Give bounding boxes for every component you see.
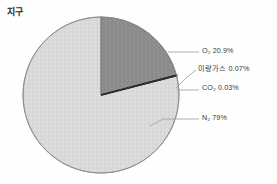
pie-chart-figure: 지구 — [0, 0, 277, 184]
pie-label-n2: N₂ 79% — [202, 113, 227, 122]
pie-label-trace-gases: 미량가스 0.07% — [198, 64, 249, 73]
pie-label-o2: O₂ 20.9% — [202, 46, 234, 55]
pie-label-co2: CO₂ 0.03% — [202, 83, 239, 92]
leader-line-trace-gases — [176, 70, 196, 88]
pie-chart-canvas — [0, 0, 277, 184]
